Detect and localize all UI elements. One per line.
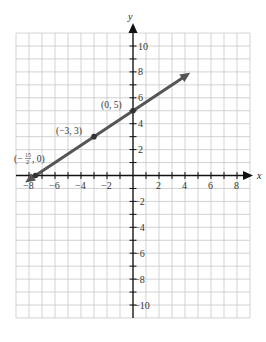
svg-text:6: 6 [138, 92, 143, 103]
svg-text:−2: −2 [101, 180, 112, 191]
svg-text:8: 8 [234, 180, 239, 191]
y-axis-label: y [127, 11, 133, 22]
point-label-neg3-3: (−3, 3) [56, 126, 82, 137]
coordinate-plane: −8−6−4−22468108642−2−4−6−8−10 x y (0, 5)… [0, 0, 266, 342]
svg-text:4: 4 [182, 180, 187, 191]
svg-text:4: 4 [138, 118, 143, 129]
svg-text:2: 2 [156, 180, 161, 191]
svg-text:−8: −8 [134, 274, 145, 285]
y-axis-arrow-icon [129, 23, 138, 33]
x-axis-arrow-icon [243, 171, 253, 180]
point-neg3-3 [91, 134, 97, 140]
svg-text:−6: −6 [134, 248, 145, 259]
p3-numerator: 15 [25, 152, 31, 158]
p3-suffix: , 0) [32, 154, 45, 165]
svg-text:−10: −10 [134, 300, 150, 311]
x-axis-label: x [256, 170, 262, 181]
svg-text:8: 8 [138, 66, 143, 77]
svg-text:−4: −4 [134, 222, 145, 233]
svg-text:−4: −4 [75, 180, 86, 191]
graph-line [29, 75, 186, 179]
point-label-0-5: (0, 5) [101, 100, 122, 111]
p3-prefix: (− [14, 154, 23, 165]
point-neg15over2-0 [33, 173, 39, 179]
svg-text:, 0): , 0) [32, 154, 45, 165]
svg-text:2: 2 [138, 144, 143, 155]
point-0-5 [130, 108, 136, 114]
svg-text:−2: −2 [134, 196, 145, 207]
svg-text:(−: (− [14, 154, 23, 165]
p3-denominator: 2 [26, 159, 29, 165]
svg-text:10: 10 [138, 41, 148, 52]
svg-text:6: 6 [208, 180, 213, 191]
svg-text:15: 15 [25, 152, 31, 158]
svg-text:−6: −6 [49, 180, 60, 191]
svg-text:2: 2 [26, 159, 29, 165]
